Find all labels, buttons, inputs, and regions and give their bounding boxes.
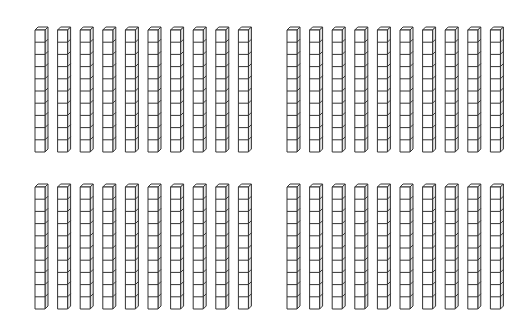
ten-rod: [125, 27, 138, 152]
ten-rod: [148, 27, 161, 152]
ten-rod: [216, 27, 229, 152]
ten-rod: [35, 27, 48, 152]
ten-rod: [355, 184, 368, 309]
rod-group-top-left: [35, 27, 251, 152]
ten-rod: [35, 184, 48, 309]
ten-rod: [355, 27, 368, 152]
ten-rod: [171, 27, 184, 152]
ten-rod: [125, 184, 138, 309]
ten-rod: [80, 27, 93, 152]
ten-rod: [400, 27, 413, 152]
ten-rod: [490, 184, 503, 309]
ten-rod: [193, 184, 206, 309]
ten-rod: [377, 184, 390, 309]
ten-rod: [490, 27, 503, 152]
ten-rod: [332, 27, 345, 152]
ten-rod: [310, 184, 323, 309]
ten-rod: [193, 27, 206, 152]
ten-rod: [423, 184, 436, 309]
ten-rod: [58, 27, 71, 152]
ten-rod: [103, 184, 116, 309]
ten-rod: [468, 184, 481, 309]
ten-rod: [103, 27, 116, 152]
rod-group-bottom-left: [35, 184, 251, 309]
ten-rod: [238, 184, 251, 309]
base-ten-blocks-figure: [0, 0, 529, 325]
ten-rod: [310, 27, 323, 152]
ten-rod: [445, 27, 458, 152]
ten-rod: [80, 184, 93, 309]
ten-rod: [423, 27, 436, 152]
ten-rod: [377, 27, 390, 152]
rod-group-top-right: [287, 27, 503, 152]
ten-rod: [468, 27, 481, 152]
ten-rod: [287, 184, 300, 309]
ten-rod: [332, 184, 345, 309]
ten-rod: [58, 184, 71, 309]
ten-rod: [445, 184, 458, 309]
ten-rod: [287, 27, 300, 152]
ten-rod: [238, 27, 251, 152]
ten-rod: [148, 184, 161, 309]
ten-rod: [400, 184, 413, 309]
ten-rod: [216, 184, 229, 309]
ten-rod: [171, 184, 184, 309]
rod-group-bottom-right: [287, 184, 503, 309]
